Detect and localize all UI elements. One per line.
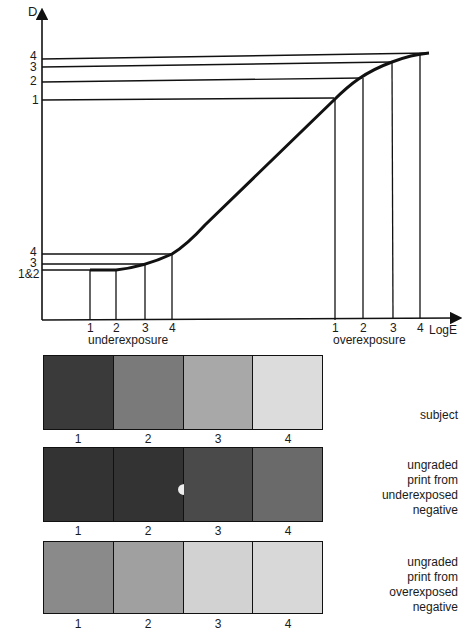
overexposed-print-strip <box>43 541 323 614</box>
strip-numbers: 1 2 3 4 <box>43 617 323 631</box>
density-label: 2 <box>30 75 37 87</box>
tone-cell <box>114 448 184 521</box>
tone-cell <box>114 542 184 613</box>
subject-strip <box>43 355 323 430</box>
y-axis-label: D <box>28 6 37 18</box>
underexposure-caption: underexposure <box>88 334 168 346</box>
tone-cell <box>253 448 322 521</box>
underexposed-print-strip <box>43 447 323 522</box>
strip-caption: ungraded print from underexposed negativ… <box>382 458 458 518</box>
characteristic-curve <box>90 53 429 270</box>
tone-cell <box>114 356 184 429</box>
strip-numbers: 1 2 3 4 <box>43 524 323 538</box>
tick-label: 4 <box>417 322 424 334</box>
strip-numbers: 1 2 3 4 <box>43 432 323 446</box>
x-axis-label: LogE <box>429 324 457 336</box>
overexposure-caption: overexposure <box>333 334 406 346</box>
tone-cell <box>184 542 254 613</box>
tone-cell <box>184 356 254 429</box>
tone-cell <box>44 356 114 429</box>
tone-cell <box>184 448 254 521</box>
density-label: 1&2 <box>18 268 39 280</box>
x-axis <box>42 318 456 320</box>
tick-label: 4 <box>169 322 176 334</box>
tone-cell <box>253 542 322 613</box>
density-label: 3 <box>30 61 37 73</box>
characteristic-curve-graph <box>0 0 470 345</box>
tone-cell <box>44 542 114 613</box>
tone-cell <box>253 356 322 429</box>
tone-cell <box>44 448 114 521</box>
strip-caption: subject <box>420 408 458 423</box>
strip-caption: ungraded print from overexposed negative <box>389 555 458 615</box>
density-label: 1 <box>32 94 39 106</box>
